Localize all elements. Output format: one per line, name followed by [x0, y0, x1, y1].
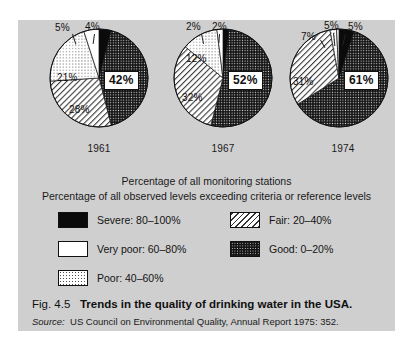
pie-chart-1967: 52% 32% 12% 2% 2% 1967 — [156, 20, 290, 160]
pie-1961-svg — [32, 20, 166, 140]
caption-line-main: Fig. 4.5 Trends in the quality of drinki… — [32, 298, 384, 310]
pie-1961-label-poor: 21% — [57, 72, 78, 83]
pie-1967-label-severe: 2% — [212, 21, 227, 32]
legend-column-right: Fair: 20–40% Good: 0–20% — [230, 212, 333, 270]
pie-1967-label-very-poor: 2% — [186, 21, 201, 32]
legend-item-severe: Severe: 80–100% — [58, 212, 186, 228]
caption-figure-number: Fig. 4.5 — [32, 298, 70, 310]
legend-item-poor: Poor: 40–60% — [58, 270, 186, 286]
source-label: Source: — [32, 316, 65, 327]
pie-1967-label-good: 52% — [228, 71, 263, 90]
light-dotted-swatch-icon — [58, 270, 88, 286]
pie-chart-1961: 42% 28% 21% 5% 4% 1961 — [32, 20, 166, 160]
chart-subtitles: Percentage of all monitoring stations Pe… — [18, 175, 395, 202]
legend-item-fair: Fair: 20–40% — [230, 212, 333, 228]
subtitle-observed-levels: Percentage of all observed levels exceed… — [18, 190, 395, 202]
pie-1974-year-label: 1974 — [276, 143, 410, 154]
pie-1961-label-severe: 4% — [85, 21, 100, 32]
pie-1974-label-good: 61% — [344, 71, 379, 90]
pie-1961-label-good: 42% — [104, 71, 139, 90]
dark-dotted-swatch-icon — [230, 241, 260, 257]
caption-source-line: Source: US Council on Environmental Qual… — [32, 316, 384, 327]
white-swatch-icon — [58, 241, 88, 257]
legend-label-very-poor: Very poor: 60–80% — [97, 243, 186, 255]
legend-label-severe: Severe: 80–100% — [97, 214, 180, 226]
pie-1974-label-very-poor: 5% — [324, 20, 339, 31]
subtitle-monitoring-stations: Percentage of all monitoring stations — [18, 175, 395, 187]
pie-1967-year-label: 1967 — [156, 143, 290, 154]
pie-1974-label-poor: 7% — [301, 31, 316, 42]
pie-chart-group: 42% 28% 21% 5% 4% 1961 — [18, 20, 395, 160]
pie-1961-label-fair: 28% — [69, 104, 90, 115]
pie-1961-label-very-poor: 5% — [55, 22, 70, 33]
source-text: US Council on Environmental Quality, Ann… — [70, 316, 339, 327]
pie-1974-label-severe: 5% — [348, 21, 363, 32]
pie-1974-label-fair: 31% — [293, 76, 314, 87]
legend-label-poor: Poor: 40–60% — [97, 272, 164, 284]
legend-label-fair: Fair: 20–40% — [269, 214, 331, 226]
solid-black-swatch-icon — [58, 212, 88, 228]
pie-1967-label-poor: 12% — [186, 53, 207, 64]
pie-chart-1974: 61% 31% 7% 5% 5% 1974 — [276, 20, 410, 160]
legend-column-left: Severe: 80–100% Very poor: 60–80% Poor: … — [58, 212, 186, 299]
legend-item-very-poor: Very poor: 60–80% — [58, 241, 186, 257]
legend-item-good: Good: 0–20% — [230, 241, 333, 257]
legend-label-good: Good: 0–20% — [269, 243, 333, 255]
caption-title: Trends in the quality of drinking water … — [80, 298, 352, 310]
figure-panel: 42% 28% 21% 5% 4% 1961 — [18, 20, 395, 331]
pie-1967-svg — [156, 20, 290, 140]
diagonal-hatch-swatch-icon — [230, 212, 260, 228]
pie-1967-label-fair: 32% — [182, 92, 203, 103]
figure-caption: Fig. 4.5 Trends in the quality of drinki… — [32, 298, 384, 327]
pie-1961-year-label: 1961 — [32, 143, 166, 154]
